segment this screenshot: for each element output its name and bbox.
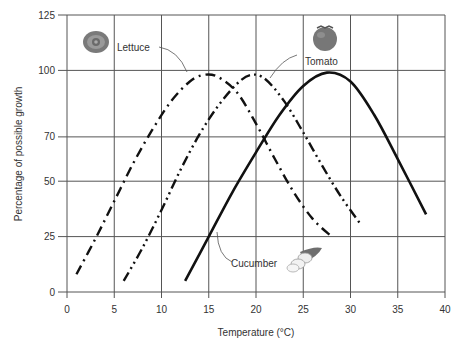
lettuce-leader: [159, 47, 187, 72]
tomato-icon: [313, 26, 337, 51]
cucumber-icon: [287, 248, 322, 273]
cucumber-label: Cucumber: [231, 258, 278, 269]
x-tick-label: 25: [298, 304, 310, 315]
y-tick-label: 50: [44, 176, 56, 187]
growth-chart: 05101520253035400255070100125 Lettuce To…: [0, 0, 462, 352]
x-tick-label: 30: [345, 304, 357, 315]
y-tick-label: 70: [44, 131, 56, 142]
y-tick-label: 100: [38, 65, 55, 76]
series-lines: [76, 72, 426, 280]
lettuce-icon: [83, 31, 109, 53]
y-tick-label: 0: [49, 287, 55, 298]
y-tick-label: 125: [38, 10, 55, 21]
tomato-leader: [270, 55, 297, 78]
x-axis-label: Temperature (°C): [218, 327, 295, 338]
y-tick-label: 25: [44, 231, 56, 242]
axes: 05101520253035400255070100125: [38, 10, 451, 316]
tomato-label: Tomato: [305, 56, 338, 67]
y-axis-label: Percentage of possible growth: [13, 87, 24, 222]
lettuce-label: Lettuce: [117, 42, 150, 53]
grid: [58, 15, 445, 298]
x-tick-label: 0: [64, 304, 70, 315]
x-tick-label: 5: [111, 304, 117, 315]
x-tick-label: 40: [439, 304, 451, 315]
x-tick-label: 35: [392, 304, 404, 315]
x-tick-label: 15: [203, 304, 215, 315]
x-tick-label: 20: [250, 304, 262, 315]
x-tick-label: 10: [156, 304, 168, 315]
